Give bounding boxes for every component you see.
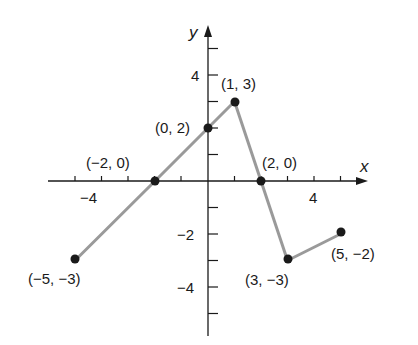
y-tick-label-neg2: −2 [177,226,194,243]
point-label-0-2: (0, 2) [155,119,190,136]
point-label-3-m3: (3, −3) [245,271,289,288]
point-m2-0 [151,177,160,186]
x-axis-arrow-icon [356,177,368,185]
point-label-1-3: (1, 3) [221,75,256,92]
x-tick-label-neg4: −4 [80,189,97,206]
point-label-5-m2: (5, −2) [331,245,375,262]
y-tick-label-4: 4 [191,67,199,84]
x-tick-label-4: 4 [309,189,317,206]
y-axis-label: y [188,23,199,42]
point-label-m5-m3: (−5, −3) [28,270,81,287]
point-0-2 [204,124,213,133]
graph: x y −4 4 4 −2 −4 (−5, −3) (−2, 0) (0, 2)… [0,0,418,345]
point-label-m2-0: (−2, 0) [86,154,130,171]
point-m5-m3 [71,255,80,264]
x-axis-label: x [359,157,369,176]
y-tick-label-neg4: −4 [177,279,194,296]
point-3-m3 [284,255,293,264]
point-5-m2 [337,228,346,237]
point-label-2-0: (2, 0) [262,154,297,171]
point-1-3 [231,98,240,107]
point-2-0 [257,177,266,186]
y-axis-arrow-icon [204,25,212,37]
